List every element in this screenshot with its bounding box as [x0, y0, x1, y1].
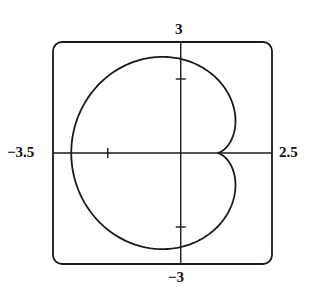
y-max-label: 3 — [175, 22, 183, 37]
polar-plot — [0, 0, 311, 287]
y-min-label: −3 — [168, 270, 184, 285]
x-max-label: 2.5 — [279, 145, 298, 160]
x-min-label: −3.5 — [7, 145, 34, 160]
